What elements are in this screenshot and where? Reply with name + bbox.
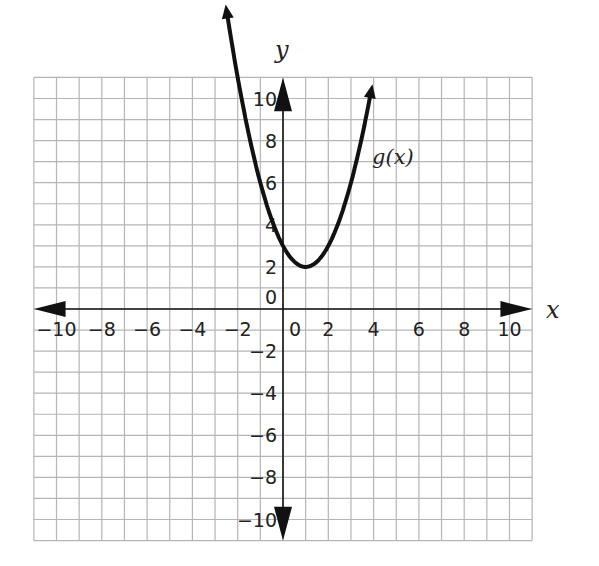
- svg-text:2: 2: [322, 318, 334, 340]
- svg-text:10: 10: [253, 88, 277, 110]
- x-axis-label: x: [546, 296, 560, 324]
- axes: [34, 77, 532, 540]
- svg-text:−10: −10: [36, 318, 76, 340]
- function-label: g(x): [372, 145, 414, 169]
- y-axis-label: y: [274, 36, 289, 64]
- svg-text:−8: −8: [88, 318, 116, 340]
- svg-text:0: 0: [265, 286, 277, 308]
- svg-text:6: 6: [265, 172, 277, 194]
- svg-text:8: 8: [458, 318, 470, 340]
- svg-text:−4: −4: [178, 318, 206, 340]
- coordinate-plane: −10−8−6−4−20246810−10−8−6−4−20246810 x y…: [0, 0, 599, 566]
- svg-text:4: 4: [368, 318, 380, 340]
- svg-text:−10: −10: [237, 509, 277, 531]
- svg-text:6: 6: [413, 318, 425, 340]
- svg-text:−4: −4: [249, 382, 277, 404]
- curve-arrowheads: [222, 4, 376, 99]
- svg-text:8: 8: [265, 130, 277, 152]
- curve-g: [228, 16, 371, 267]
- svg-text:10: 10: [497, 318, 521, 340]
- svg-text:0: 0: [289, 318, 301, 340]
- svg-text:2: 2: [265, 256, 277, 278]
- svg-text:−2: −2: [249, 340, 277, 362]
- svg-text:−6: −6: [249, 424, 277, 446]
- svg-text:−6: −6: [133, 318, 161, 340]
- svg-text:−2: −2: [224, 318, 252, 340]
- svg-text:−8: −8: [249, 466, 277, 488]
